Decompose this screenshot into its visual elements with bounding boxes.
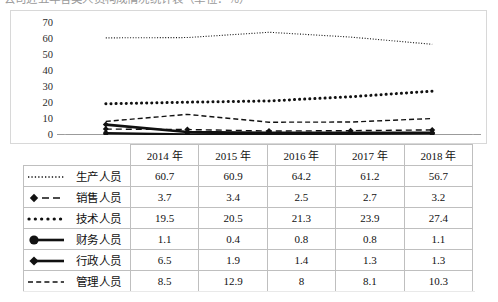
row-label-1: 生产人员	[68, 166, 131, 187]
table-cell: 21.3	[267, 208, 335, 229]
table-cell: 2.7	[336, 187, 404, 208]
series-line	[106, 32, 432, 44]
series-技术人员	[106, 91, 432, 104]
y-axis-tick-50: 50	[11, 50, 53, 60]
row-label-2: 销售人员	[68, 187, 131, 208]
row-label-4: 财务人员	[68, 229, 131, 250]
table-cell: 8.5	[131, 271, 199, 292]
row-legend-marker	[24, 271, 68, 292]
table-cell: 12.9	[199, 271, 267, 292]
table-cell: 1.9	[199, 250, 267, 271]
table-cell: 1.4	[267, 250, 335, 271]
table-cell: 27.4	[404, 208, 472, 229]
table-row: 财务人员1.10.40.80.81.1	[24, 229, 473, 250]
row-legend-marker	[24, 208, 68, 229]
table-row: 行政人员6.51.91.41.31.3	[24, 250, 473, 271]
table-corner-legend	[24, 145, 68, 166]
y-axis-tick-30: 30	[11, 82, 53, 92]
table-column-header-2: 2015 年	[199, 145, 267, 166]
table-cell: 10.3	[404, 271, 472, 292]
table-column-header-4: 2017 年	[336, 145, 404, 166]
table-body: 生产人员60.760.964.261.256.7销售人员3.73.42.52.7…	[24, 166, 473, 292]
y-axis-tick-10: 10	[11, 114, 53, 124]
y-axis-tick-40: 40	[11, 66, 53, 76]
table-cell: 23.9	[336, 208, 404, 229]
table-cell: 3.7	[131, 187, 199, 208]
row-label-6: 管理人员	[68, 271, 131, 292]
table-cell: 0.8	[267, 229, 335, 250]
data-point-marker	[103, 131, 108, 135]
row-legend-marker	[24, 250, 68, 271]
diamond-dashed-line-icon	[26, 192, 66, 204]
row-label-3: 技术人员	[68, 208, 131, 229]
table-cell: 1.1	[131, 229, 199, 250]
table-column-header-1: 2014 年	[131, 145, 199, 166]
plot-area	[57, 23, 481, 135]
y-axis-tick-60: 60	[11, 34, 53, 44]
table-column-header-5: 2018 年	[404, 145, 472, 166]
row-legend-marker	[24, 187, 68, 208]
plot-svg	[57, 23, 481, 135]
table-row: 技术人员19.520.521.323.927.4	[24, 208, 473, 229]
series-生产人员	[106, 32, 432, 44]
table-cell: 56.7	[404, 166, 472, 187]
footer-divider	[23, 291, 475, 292]
table-row: 生产人员60.760.964.261.256.7	[24, 166, 473, 187]
row-legend-marker	[24, 166, 68, 187]
table-cell: 19.5	[131, 208, 199, 229]
table-cell: 20.5	[199, 208, 267, 229]
table-cell: 61.2	[336, 166, 404, 187]
row-label-5: 行政人员	[68, 250, 131, 271]
table-cell: 6.5	[131, 250, 199, 271]
table-column-header-3: 2016 年	[267, 145, 335, 166]
table-cell: 2.5	[267, 187, 335, 208]
table-cell: 3.2	[404, 187, 472, 208]
table-cell: 60.7	[131, 166, 199, 187]
diamond-solid-line-icon	[26, 255, 66, 267]
series-line	[106, 91, 432, 104]
circle-solid-line-icon	[26, 234, 66, 246]
series-line	[106, 114, 432, 122]
table-cell: 60.9	[199, 166, 267, 187]
table-cell: 0.8	[336, 229, 404, 250]
table-cell: 3.4	[199, 187, 267, 208]
table-cell: 8.1	[336, 271, 404, 292]
table-header-row: 2014 年2015 年2016 年2017 年2018 年	[24, 145, 473, 166]
table-cell: 1.3	[404, 250, 472, 271]
table-cell: 8	[267, 271, 335, 292]
table-cell: 1.1	[404, 229, 472, 250]
table-cell: 1.3	[336, 250, 404, 271]
y-axis-tick-20: 20	[11, 98, 53, 108]
bold-dotted-line-icon	[26, 213, 66, 225]
y-axis-tick-0: 0	[11, 130, 53, 140]
table-row: 销售人员3.73.42.52.73.2	[24, 187, 473, 208]
figure-caption-text: 公司近五年各类人员构成情况统计表（单位：％）	[4, 0, 250, 6]
y-axis: 706050403020100	[11, 23, 53, 135]
table-cell: 0.4	[199, 229, 267, 250]
chart-panel: 706050403020100	[10, 10, 487, 144]
table-corner-label	[68, 145, 131, 166]
row-legend-marker	[24, 229, 68, 250]
y-axis-tick-70: 70	[11, 18, 53, 28]
chart-table-figure: 公司近五年各类人员构成情况统计表（单位：％） 706050403020100 2…	[0, 0, 498, 302]
series-管理人员	[106, 114, 432, 122]
dashed-line-icon	[26, 276, 66, 288]
table-row: 管理人员8.512.988.110.3	[24, 271, 473, 292]
table-head: 2014 年2015 年2016 年2017 年2018 年	[24, 145, 473, 166]
table-cell: 64.2	[267, 166, 335, 187]
data-table: 2014 年2015 年2016 年2017 年2018 年 生产人员60.76…	[23, 144, 473, 292]
figure-caption-cropped: 公司近五年各类人员构成情况统计表（单位：％）	[0, 0, 498, 9]
data-point-marker	[103, 122, 109, 128]
fine-dotted-line-icon	[26, 171, 66, 183]
